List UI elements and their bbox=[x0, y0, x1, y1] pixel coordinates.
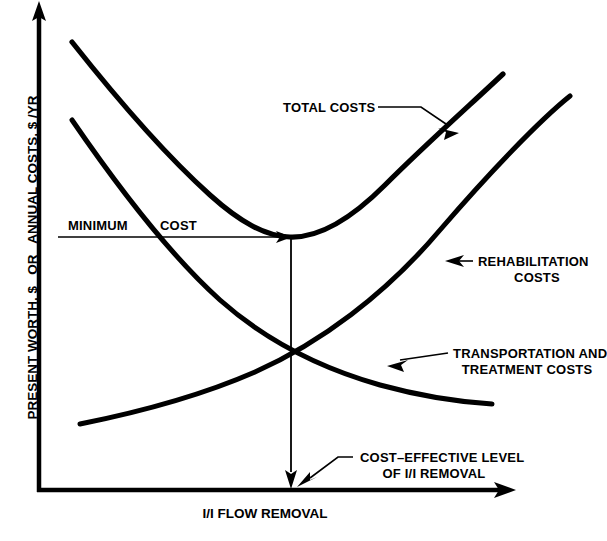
label-cost: COST bbox=[160, 218, 197, 233]
label-cost-effective-line2: OF I/I REMOVAL bbox=[360, 466, 508, 481]
label-cost-effective-line1: COST–EFFECTIVE LEVEL bbox=[360, 450, 524, 465]
transportation-arrowhead bbox=[387, 360, 408, 372]
transportation-leader-line bbox=[400, 353, 448, 360]
x-axis-title: I/I FLOW REMOVAL bbox=[0, 506, 530, 521]
y-axis-title: PRESENT WORTH, $ OR ANNUAL COSTS, $ /YR bbox=[25, 23, 40, 493]
cost-effective-leader-line bbox=[310, 457, 353, 478]
label-transportation-costs-line1: TRANSPORTATION AND bbox=[453, 346, 607, 361]
axis-group bbox=[32, 1, 516, 498]
dropline-arrowhead bbox=[285, 470, 297, 489]
transportation-costs-leader bbox=[387, 353, 448, 372]
cost-effective-dropline bbox=[285, 237, 297, 489]
label-rehabilitation-costs-line1: REHABILITATION bbox=[478, 254, 589, 269]
label-minimum: MINIMUM bbox=[68, 218, 128, 233]
total-costs-leader-line bbox=[378, 107, 446, 124]
label-rehabilitation-costs-line2: COSTS bbox=[478, 270, 596, 285]
cost-effectiveness-chart: TOTAL COSTS REHABILITATION COSTS TRANSPO… bbox=[0, 0, 607, 541]
rehabilitation-costs-leader bbox=[445, 255, 473, 267]
cost-effective-level-leader bbox=[297, 457, 353, 487]
label-total-costs: TOTAL COSTS bbox=[283, 100, 375, 115]
label-transportation-costs-line2: TREATMENT COSTS bbox=[453, 362, 601, 377]
